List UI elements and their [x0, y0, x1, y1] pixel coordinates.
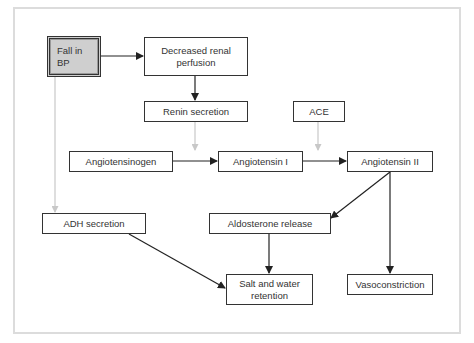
node-vasoconstriction: Vasoconstriction	[347, 274, 433, 295]
node-decreased-renal-perfusion: Decreased renal perfusion	[144, 37, 248, 76]
node-ace: ACE	[293, 101, 345, 122]
edge-aii-aldo	[331, 172, 390, 218]
edge-adh-salt	[129, 234, 225, 288]
node-adh-secretion: ADH secretion	[42, 213, 146, 234]
node-salt-water-retention: Salt and water retention	[226, 274, 313, 305]
node-angiotensin-ii: Angiotensin II	[347, 151, 433, 172]
node-renin-secretion: Renin secretion	[144, 101, 248, 122]
node-angiotensin-i: Angiotensin I	[218, 151, 303, 172]
node-aldosterone-release: Aldosterone release	[209, 213, 331, 234]
node-fall-in-bp: Fall in BP	[47, 36, 101, 77]
node-angiotensinogen: Angiotensinogen	[69, 151, 173, 172]
